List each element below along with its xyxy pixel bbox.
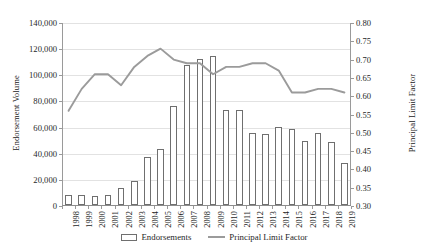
y-axis-left-tick-label: 60,000 [33, 123, 57, 133]
y-axis-right-tick-mark [351, 96, 354, 97]
x-axis-label-2014: 2014 [282, 211, 291, 228]
x-axis-label-1999: 1999 [85, 211, 94, 228]
y-axis-right-tick-mark [351, 41, 354, 42]
x-axis-label-2016: 2016 [309, 211, 318, 228]
legend-label-principal-limit-factor: Principal Limit Factor [229, 232, 307, 242]
x-axis-tick-mark [141, 206, 142, 209]
x-axis-tick-mark [101, 206, 102, 209]
x-axis-label-2012: 2012 [256, 211, 265, 228]
y-axis-right-tick-label: 0.50 [356, 128, 371, 138]
x-axis-label-2011: 2011 [243, 211, 252, 227]
y-axis-left-tick-label: 20,000 [33, 175, 57, 185]
y-axis-left-tick-label: 140,000 [29, 18, 57, 28]
y-axis-right-tick-label: 0.30 [356, 201, 371, 211]
x-axis-tick-mark [128, 206, 129, 209]
x-axis-tick-mark [220, 206, 221, 209]
chart-legend: Endorsements Principal Limit Factor [0, 232, 429, 242]
x-axis-tick-mark [62, 206, 63, 209]
x-axis-tick-mark [75, 206, 76, 209]
legend-item-principal-limit-factor: Principal Limit Factor [208, 232, 307, 242]
legend-label-endorsements: Endorsements [141, 232, 191, 242]
y-axis-right-title: Principal Limit Factor [407, 43, 417, 183]
y-axis-right-tick-mark [351, 188, 354, 189]
x-axis-tick-mark [338, 206, 339, 209]
y-axis-right-tick-label: 0.75 [356, 36, 371, 46]
y-axis-right-tick-mark [351, 151, 354, 152]
x-axis-label-2019: 2019 [348, 211, 357, 228]
x-axis-tick-mark [285, 206, 286, 209]
line-series-principal-limit-factor [62, 23, 351, 206]
x-axis-label-2018: 2018 [335, 211, 344, 228]
x-axis-tick-mark [246, 206, 247, 209]
x-axis-tick-mark [312, 206, 313, 209]
x-axis-label-2001: 2001 [111, 211, 120, 228]
x-axis-tick-mark [167, 206, 168, 209]
x-axis-label-2009: 2009 [217, 211, 226, 228]
plf-polyline [69, 49, 345, 111]
y-axis-right-tick-label: 0.60 [356, 91, 371, 101]
y-axis-right-tick-mark [351, 133, 354, 134]
y-axis-right-tick-mark [351, 23, 354, 24]
y-axis-right-tick-label: 0.70 [356, 55, 371, 65]
y-axis-right-tick-label: 0.35 [356, 183, 371, 193]
x-axis-tick-mark [154, 206, 155, 209]
y-axis-right-tick-mark [351, 78, 354, 79]
y-axis-right-tick-label: 0.80 [356, 18, 371, 28]
y-axis-left-tick-label: 0 [53, 201, 57, 211]
x-axis-label-2006: 2006 [177, 211, 186, 228]
endorsement-volume-chart: Endorsement Volume Principal Limit Facto… [0, 0, 429, 250]
y-axis-left-tick-label: 40,000 [33, 149, 57, 159]
x-axis-tick-mark [115, 206, 116, 209]
y-axis-right-tick-label: 0.55 [356, 110, 371, 120]
legend-item-endorsements: Endorsements [121, 232, 191, 242]
x-axis-label-2015: 2015 [295, 211, 304, 228]
x-axis-label-2017: 2017 [322, 211, 331, 228]
x-axis-label-2008: 2008 [203, 211, 212, 228]
x-axis-label-2000: 2000 [98, 211, 107, 228]
y-axis-left-title: Endorsement Volume [11, 43, 21, 183]
x-axis-tick-mark [193, 206, 194, 209]
x-axis-label-2010: 2010 [230, 211, 239, 228]
plot-area: 020,00040,00060,00080,000100,000120,0001… [62, 23, 351, 206]
x-axis-label-2007: 2007 [190, 211, 199, 228]
x-axis-tick-mark [233, 206, 234, 209]
x-axis-label-2002: 2002 [125, 211, 134, 228]
axis-line-right [350, 23, 351, 206]
x-axis-tick-mark [88, 206, 89, 209]
x-axis-tick-mark [325, 206, 326, 209]
x-axis-tick-mark [259, 206, 260, 209]
x-axis-label-2003: 2003 [138, 211, 147, 228]
y-axis-right-tick-label: 0.65 [356, 73, 371, 83]
y-axis-left-tick-label: 100,000 [29, 70, 57, 80]
x-axis-tick-mark [207, 206, 208, 209]
x-axis-label-1998: 1998 [72, 211, 81, 228]
y-axis-right-tick-mark [351, 60, 354, 61]
y-axis-left-tick-label: 80,000 [33, 96, 57, 106]
line-swatch-icon [208, 236, 225, 239]
y-axis-right-tick-mark [351, 115, 354, 116]
x-axis-tick-mark [351, 206, 352, 209]
bar-swatch-icon [121, 234, 137, 241]
axis-line-left [62, 23, 63, 206]
y-axis-right-tick-mark [351, 169, 354, 170]
x-axis-label-2013: 2013 [269, 211, 278, 228]
y-axis-right-tick-label: 0.45 [356, 146, 371, 156]
x-axis-label-2004: 2004 [151, 211, 160, 228]
x-axis-label-2005: 2005 [164, 211, 173, 228]
y-axis-left-tick-label: 120,000 [29, 44, 57, 54]
x-axis-tick-mark [180, 206, 181, 209]
x-axis-tick-mark [298, 206, 299, 209]
y-axis-right-tick-label: 0.40 [356, 164, 371, 174]
x-axis-tick-mark [272, 206, 273, 209]
